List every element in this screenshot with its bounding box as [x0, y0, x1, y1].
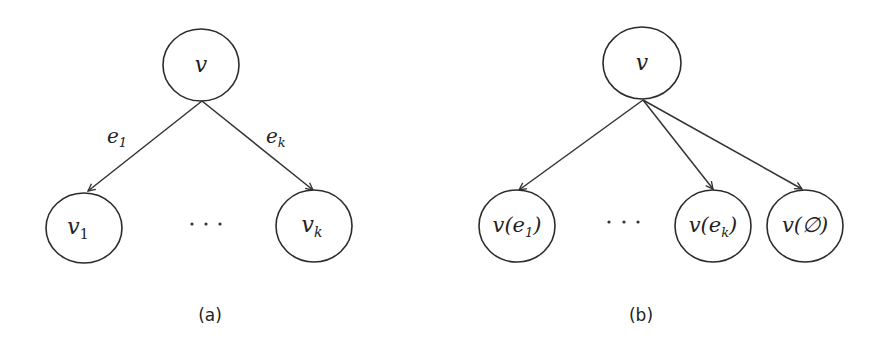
node-v-e1: v(e1) [479, 190, 555, 262]
edge-to-v-ek [643, 100, 713, 189]
node-vk-label: v [302, 212, 315, 237]
node-v-ek-suffix: ) [728, 213, 737, 237]
edge-label-ek: ek [266, 124, 286, 150]
node-root-a-label: v [195, 52, 208, 77]
node-root-a: v [163, 29, 239, 101]
node-v1-sub: 1 [80, 226, 89, 242]
node-vk: vk [276, 190, 352, 262]
edge-to-v-e1 [519, 100, 643, 190]
node-v-ek: v(ek) [675, 190, 751, 262]
node-v-ek-sub: k [721, 225, 729, 240]
ellipsis-a [190, 222, 221, 225]
caption-a: (a) [198, 305, 222, 325]
ellipsis-b [607, 220, 639, 223]
node-root-b: v [603, 27, 681, 99]
panel-a: v e1 ek v1 vk (a) [46, 29, 352, 325]
edge-ek [202, 101, 313, 190]
edge-to-v-empty [643, 100, 802, 189]
node-v-e1-sub: 1 [525, 225, 533, 240]
edge-label-e1: e1 [107, 124, 127, 150]
node-v-ek-prefix: v(e [689, 213, 721, 237]
caption-b: (b) [629, 305, 653, 325]
node-v1-label: v [67, 214, 80, 239]
node-vk-sub: k [314, 224, 322, 240]
node-v-empty-label: v(∅) [782, 213, 828, 237]
svg-text:v(ek): v(ek) [689, 213, 738, 240]
svg-text:v(e1): v(e1) [493, 213, 542, 240]
node-v1: v1 [46, 193, 122, 263]
node-root-b-label: v [636, 50, 649, 75]
edge-e1 [88, 101, 202, 191]
node-v-empty: v(∅) [767, 190, 843, 262]
node-v-e1-suffix: ) [532, 213, 541, 237]
tree-diagram: v e1 ek v1 vk (a) v [0, 0, 885, 347]
node-v-e1-prefix: v(e [493, 213, 525, 237]
panel-b: v v(e1) v(ek) v(∅) (b) [479, 27, 843, 325]
